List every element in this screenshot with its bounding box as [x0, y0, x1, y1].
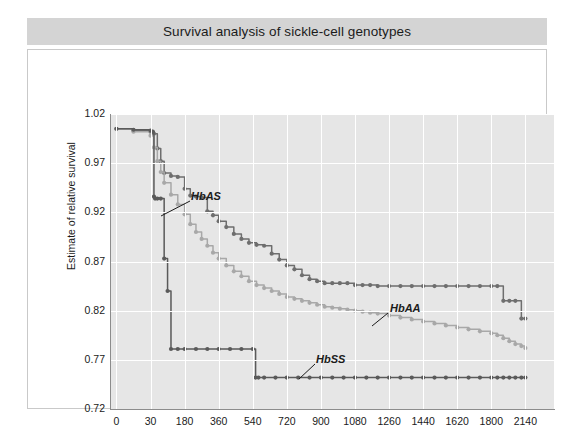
gridline-vertical — [423, 114, 424, 409]
data-point — [162, 181, 166, 185]
data-point — [169, 347, 173, 351]
data-point — [176, 175, 180, 179]
data-point — [247, 279, 251, 283]
data-point — [228, 347, 232, 351]
data-point — [513, 342, 517, 346]
data-point — [176, 347, 180, 351]
data-point — [211, 213, 215, 217]
data-point — [205, 244, 209, 248]
data-point — [194, 347, 198, 351]
gridline-horizontal — [111, 114, 554, 115]
data-point — [507, 299, 511, 303]
gridline-vertical — [287, 114, 288, 409]
data-point — [239, 347, 243, 351]
data-point — [501, 375, 505, 379]
gridline-vertical — [491, 114, 492, 409]
data-point — [188, 222, 192, 226]
data-point — [432, 375, 436, 379]
data-point — [360, 283, 364, 287]
page-title: Survival analysis of sickle-cell genotyp… — [163, 24, 411, 39]
gridline-vertical — [219, 114, 220, 409]
data-point — [159, 170, 163, 174]
data-point — [292, 267, 296, 271]
data-point — [194, 230, 198, 234]
gridline-horizontal — [111, 163, 554, 164]
data-point — [501, 299, 505, 303]
data-point — [224, 225, 228, 229]
data-point — [176, 202, 180, 206]
data-point — [169, 193, 173, 197]
data-point — [292, 297, 296, 301]
data-point — [200, 237, 204, 241]
gridline-vertical — [185, 114, 186, 409]
gridline-vertical — [457, 114, 458, 409]
data-point — [169, 174, 173, 178]
y-axis-tick-label: 0.82 — [61, 304, 105, 316]
data-point — [232, 269, 236, 273]
data-point — [277, 292, 281, 296]
data-point — [501, 336, 505, 340]
data-point — [444, 323, 448, 327]
data-point — [495, 375, 499, 379]
data-point — [131, 128, 135, 132]
data-point — [345, 281, 349, 285]
data-point — [410, 375, 414, 379]
data-point — [376, 312, 380, 316]
data-point — [254, 283, 258, 287]
data-point — [262, 286, 266, 290]
data-point — [398, 375, 402, 379]
data-point — [205, 347, 209, 351]
x-axis-line — [110, 409, 555, 410]
data-point — [323, 305, 327, 309]
data-point — [466, 327, 470, 331]
data-point — [478, 284, 482, 288]
data-point — [495, 333, 499, 337]
data-point — [270, 289, 274, 293]
gridline-vertical — [151, 114, 152, 409]
gridline-horizontal — [111, 262, 554, 263]
data-point — [519, 344, 523, 348]
gridline-vertical — [116, 114, 117, 409]
data-point — [254, 243, 258, 247]
y-axis-tick-label: 0.72 — [61, 402, 105, 414]
data-point — [307, 375, 311, 379]
data-point — [239, 274, 243, 278]
data-point — [211, 251, 215, 255]
data-point — [478, 329, 482, 333]
data-point — [513, 375, 517, 379]
data-point — [519, 375, 523, 379]
data-point — [410, 284, 414, 288]
data-point — [466, 284, 470, 288]
data-point — [224, 263, 228, 267]
x-axis-tick-label: 2140 — [503, 415, 547, 427]
data-point — [300, 299, 304, 303]
data-point — [410, 317, 414, 321]
data-point — [507, 339, 511, 343]
chart-page: Survival analysis of sickle-cell genotyp… — [0, 0, 574, 434]
data-point — [315, 279, 319, 283]
data-point — [398, 315, 402, 319]
chart-title-banner: Survival analysis of sickle-cell genotyp… — [27, 18, 547, 45]
data-point — [513, 299, 517, 303]
data-point — [398, 284, 402, 288]
data-point — [432, 284, 436, 288]
data-point — [478, 375, 482, 379]
data-point — [307, 301, 311, 305]
series-annotation-hbaa: HbAA — [390, 302, 421, 314]
data-point — [262, 375, 266, 379]
gridline-horizontal — [111, 311, 554, 312]
data-point — [519, 316, 523, 320]
data-point — [507, 375, 511, 379]
data-point — [376, 284, 380, 288]
data-point — [232, 232, 236, 236]
data-point — [165, 289, 169, 293]
gridline-vertical — [389, 114, 390, 409]
data-point — [368, 283, 372, 287]
data-point — [495, 284, 499, 288]
data-point — [159, 196, 163, 200]
data-point — [376, 375, 380, 379]
data-point — [239, 237, 243, 241]
gridline-vertical — [525, 114, 526, 409]
data-point — [444, 284, 448, 288]
y-axis-label: Estimate of relative survival — [65, 111, 77, 301]
